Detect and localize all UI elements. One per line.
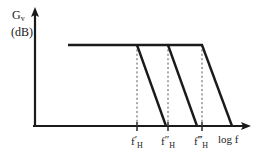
rolloff-line-fh2	[168, 45, 197, 126]
y-axis-subscript: v	[21, 14, 25, 23]
dashed-verticals	[137, 45, 202, 131]
y-axis-label-units: (dB)	[11, 26, 33, 38]
rolloff-line-fh3	[202, 45, 232, 126]
tick-fh3-subscript: H	[202, 141, 208, 150]
bode-plot-figure: Gv (dB) log f f′H f″H f‴H	[0, 0, 276, 164]
y-axis-symbol: G	[12, 8, 21, 22]
tick-label-fh3: f‴H	[194, 134, 208, 150]
x-axis-label: log f	[218, 134, 238, 145]
y-axis-label-gain: Gv	[12, 9, 25, 23]
tick-label-fh1: f′H	[131, 134, 143, 150]
x-axis	[33, 122, 251, 130]
tick-fh1-subscript: H	[137, 141, 143, 150]
tick-label-fh2: f″H	[161, 134, 175, 150]
rolloff-line-fh1	[137, 45, 166, 126]
tick-fh2-subscript: H	[169, 141, 175, 150]
rolloff-slopes	[137, 45, 232, 126]
